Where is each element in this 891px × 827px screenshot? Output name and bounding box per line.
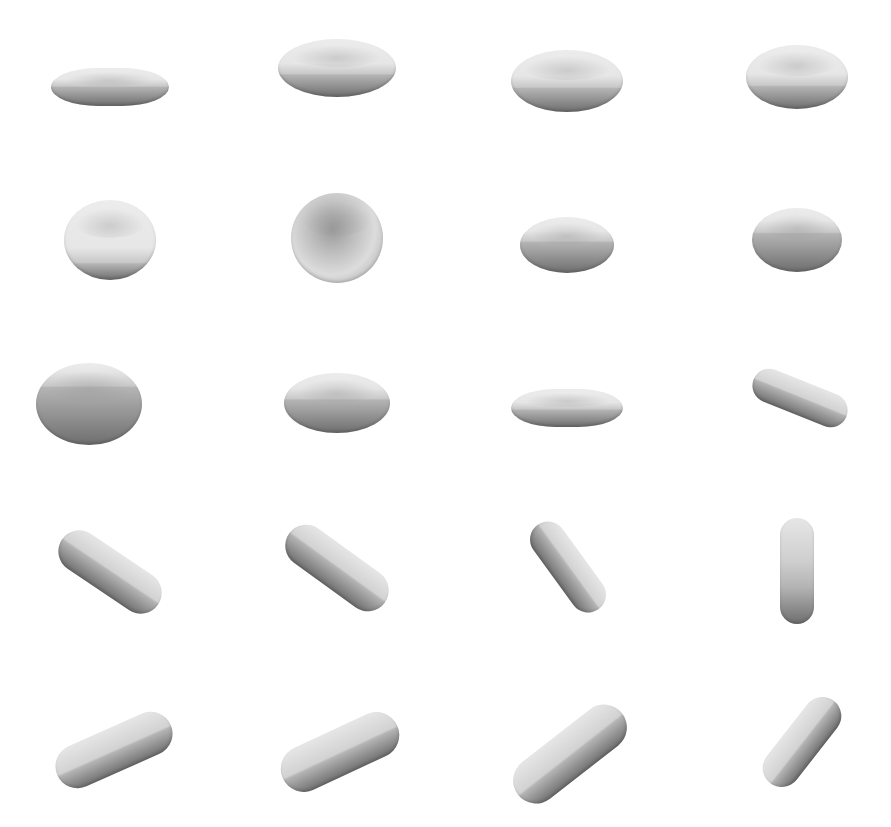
rbc-cell-r2c4 <box>752 208 842 272</box>
rbc-cell-r4c2 <box>277 516 397 619</box>
rbc-cell-r2c3 <box>520 217 614 273</box>
rbc-cell-r2c2 <box>291 193 383 283</box>
rbc-cell-r4c4 <box>780 518 814 624</box>
rbc-cell-r4c3 <box>523 514 613 619</box>
rbc-orientation-grid <box>0 0 891 827</box>
rbc-cell-r1c1 <box>51 68 169 106</box>
rbc-cell-r2c1 <box>64 200 156 280</box>
rbc-cell-r3c2 <box>284 373 390 433</box>
rbc-cell-r5c2 <box>273 705 407 800</box>
rbc-cell-r3c1 <box>36 363 142 445</box>
rbc-cell-r3c4 <box>747 364 852 433</box>
rbc-cell-r5c1 <box>48 705 179 796</box>
figure-caption <box>20 814 871 827</box>
rbc-cell-r1c2 <box>278 39 396 97</box>
rbc-cell-r1c3 <box>511 50 623 112</box>
rbc-cell-r1c4 <box>746 45 848 109</box>
rbc-cell-r5c3 <box>504 695 636 813</box>
rbc-cell-r5c4 <box>755 689 849 794</box>
rbc-cell-r3c3 <box>511 389 623 427</box>
rbc-cell-r4c1 <box>50 522 170 622</box>
